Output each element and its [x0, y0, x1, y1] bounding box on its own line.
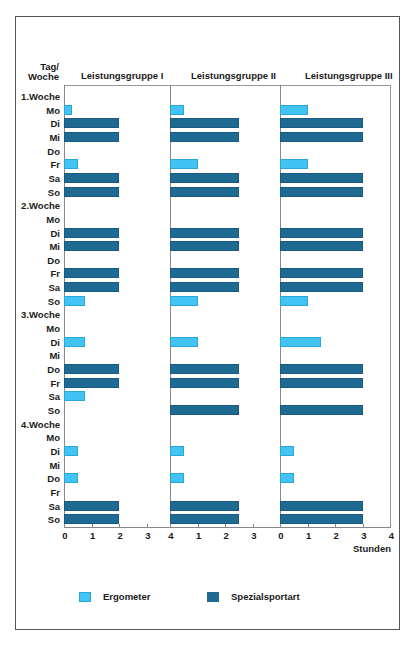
day-label: Di [51, 118, 61, 129]
legend-label-spezialsportart: Spezialsportart [231, 591, 300, 602]
week-label: 3.Woche [21, 309, 60, 320]
bar-spezialsportart [280, 282, 363, 292]
x-tick-label: 4 [168, 530, 173, 541]
x-tick [64, 524, 65, 528]
x-tick [253, 524, 254, 528]
bar-spezialsportart [64, 118, 119, 128]
day-label: Fr [51, 159, 61, 170]
x-tick [225, 524, 226, 528]
bar-spezialsportart [64, 268, 119, 278]
bar-ergometer [280, 446, 294, 456]
x-tick-label: 1 [90, 530, 95, 541]
bar-spezialsportart [64, 514, 119, 524]
x-tick-label: 3 [361, 530, 366, 541]
bar-spezialsportart [170, 378, 239, 388]
legend-label-ergometer: Ergometer [103, 591, 151, 602]
day-label: Sa [48, 172, 60, 183]
bar-ergometer [170, 473, 184, 483]
day-label: Mo [46, 323, 60, 334]
bar-ergometer [280, 473, 294, 483]
bar-spezialsportart [170, 268, 239, 278]
bar-spezialsportart [280, 132, 363, 142]
x-tick-label: 3 [251, 530, 256, 541]
bar-spezialsportart [280, 514, 363, 524]
day-label: Sa [48, 500, 60, 511]
bar-ergometer [64, 337, 85, 347]
x-tick-label: 2 [334, 530, 339, 541]
bar-spezialsportart [64, 378, 119, 388]
bar-spezialsportart [280, 228, 363, 238]
bar-ergometer [170, 446, 184, 456]
day-label: So [48, 186, 60, 197]
bar-spezialsportart [64, 228, 119, 238]
bar-spezialsportart [64, 364, 119, 374]
day-label: Fr [51, 268, 61, 279]
day-label: Fr [51, 486, 61, 497]
x-tick-label: 1 [196, 530, 201, 541]
bar-ergometer [170, 296, 198, 306]
day-label: Mi [49, 350, 60, 361]
bar-spezialsportart [280, 405, 363, 415]
bar-spezialsportart [170, 514, 239, 524]
x-tick [280, 524, 281, 528]
bar-spezialsportart [280, 268, 363, 278]
bar-spezialsportart [280, 187, 363, 197]
day-label: So [48, 404, 60, 415]
bar-ergometer [64, 105, 72, 115]
panel-header-3: Leistungsgruppe III [305, 70, 393, 81]
day-label: Sa [48, 391, 60, 402]
bar-spezialsportart [170, 187, 239, 197]
x-tick [198, 524, 199, 528]
day-label: Do [47, 145, 60, 156]
bar-spezialsportart [170, 173, 239, 183]
bar-ergometer [170, 159, 198, 169]
bar-spezialsportart [64, 501, 119, 511]
day-label: Mo [46, 213, 60, 224]
day-label: Sa [48, 282, 60, 293]
day-label: Mo [46, 104, 60, 115]
bar-ergometer [64, 391, 85, 401]
bar-spezialsportart [170, 132, 239, 142]
legend-swatch-ergometer [79, 592, 91, 602]
x-tick [390, 524, 391, 528]
x-axis-unit-label: Stunden [353, 543, 391, 554]
bar-spezialsportart [280, 501, 363, 511]
week-label: 1.Woche [21, 91, 60, 102]
bar-spezialsportart [170, 501, 239, 511]
x-tick-label: 4 [389, 530, 394, 541]
bar-ergometer [64, 446, 78, 456]
bar-ergometer [280, 105, 308, 115]
day-label: Mi [49, 459, 60, 470]
day-label: Di [51, 227, 61, 238]
x-axis-line [64, 527, 391, 528]
y-axis-title-line2: Woche [28, 72, 59, 82]
day-label: Mi [49, 131, 60, 142]
plot-area [64, 85, 391, 527]
bar-spezialsportart [64, 173, 119, 183]
bar-spezialsportart [64, 132, 119, 142]
bar-ergometer [280, 159, 308, 169]
x-tick [119, 524, 120, 528]
panel-axis-1 [64, 85, 65, 527]
day-label: Fr [51, 377, 61, 388]
x-tick-label: 0 [278, 530, 283, 541]
x-tick [363, 524, 364, 528]
day-label: So [48, 514, 60, 525]
day-label: Di [51, 336, 61, 347]
x-tick-label: 2 [118, 530, 123, 541]
x-tick [308, 524, 309, 528]
x-tick-label: 0 [62, 530, 67, 541]
y-axis-title: Tag/ Woche [28, 62, 59, 82]
x-tick-label: 2 [224, 530, 229, 541]
x-tick-label: 3 [145, 530, 150, 541]
bar-ergometer [64, 473, 78, 483]
bar-spezialsportart [170, 228, 239, 238]
bar-spezialsportart [280, 378, 363, 388]
day-label: Do [47, 254, 60, 265]
x-tick [92, 524, 93, 528]
bar-spezialsportart [170, 118, 239, 128]
bar-spezialsportart [280, 118, 363, 128]
bar-ergometer [280, 296, 308, 306]
bar-spezialsportart [64, 241, 119, 251]
bar-spezialsportart [170, 364, 239, 374]
